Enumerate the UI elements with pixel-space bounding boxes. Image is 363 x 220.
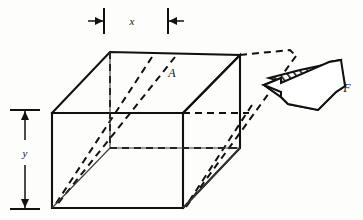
shear-deformation-figure: x y — [0, 0, 363, 220]
figure-canvas: x y — [0, 0, 363, 220]
dashed-top-back-displaced — [240, 50, 296, 56]
dashed-shear-line-1 — [55, 57, 152, 205]
block-solid-edges — [52, 52, 240, 208]
dimension-y-label: y — [22, 147, 28, 159]
block-right-face — [183, 55, 240, 208]
dimension-y-arrowhead-down — [21, 199, 29, 208]
block-back-bottom-left-receding — [52, 148, 110, 208]
dimension-x-arrowhead-right — [95, 17, 103, 25]
dimension-y-arrowhead-up — [21, 111, 29, 120]
dimension-marker-x: x — [88, 8, 184, 34]
dimension-x-label: x — [129, 15, 135, 27]
force-label-F: F — [342, 81, 351, 95]
block-front-face — [52, 113, 183, 208]
dashed-shear-line-2 — [56, 57, 175, 206]
force-arrow-outline — [264, 60, 345, 110]
dimension-marker-y: y — [10, 110, 40, 209]
force-arrow-group: F — [264, 60, 351, 110]
dashed-shear-line-4 — [186, 105, 252, 206]
block-back-bottom-right-receding — [183, 148, 240, 208]
dimension-x-arrowhead-left — [169, 17, 177, 25]
area-label-A: A — [167, 66, 176, 80]
